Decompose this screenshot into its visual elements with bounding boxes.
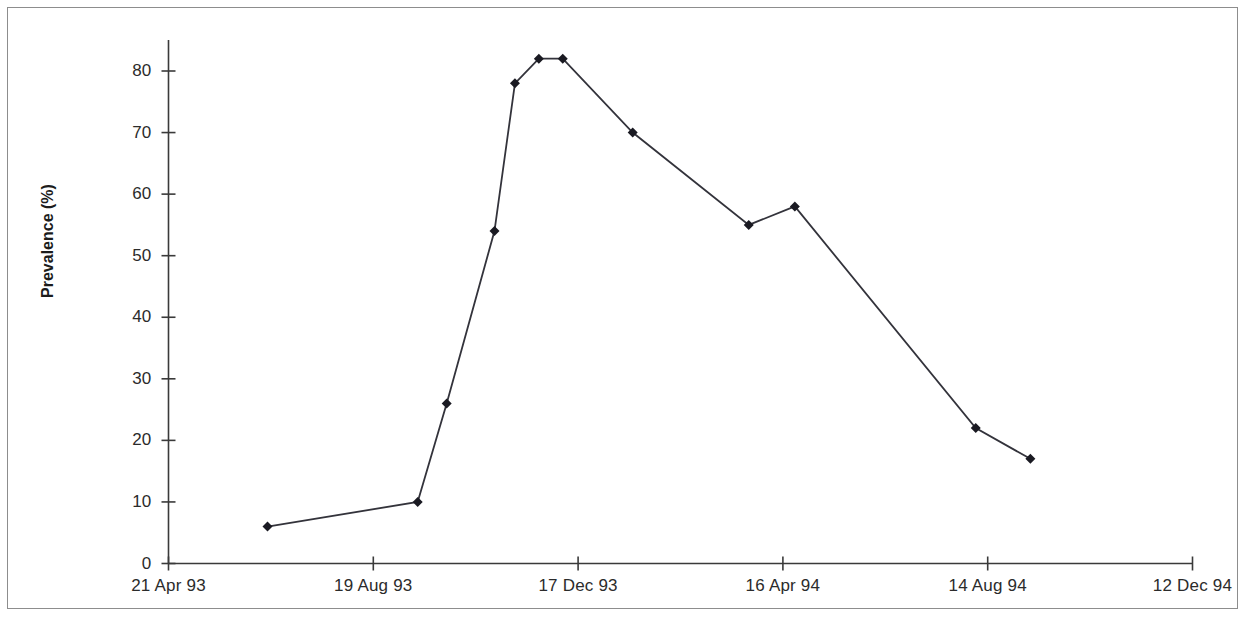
x-axis-tick-label: 21 Apr 93 <box>99 576 239 596</box>
data-point-marker <box>413 497 423 507</box>
data-line-series <box>267 59 1030 527</box>
y-axis-tick-label: 10 <box>90 492 152 512</box>
y-axis-tick-label: 20 <box>90 430 152 450</box>
line-chart-svg <box>0 0 1255 623</box>
y-axis-tick-label: 50 <box>90 246 152 266</box>
data-point-marker <box>262 522 272 532</box>
figure-container: Prevalence (%) 01020304050607080 21 Apr … <box>0 0 1255 623</box>
x-axis-tick-label: 12 Dec 94 <box>1123 576 1255 596</box>
data-point-marker <box>442 398 452 408</box>
y-axis-tick-label: 0 <box>90 554 152 574</box>
data-point-marker <box>489 226 499 236</box>
y-axis-tick-label: 80 <box>90 61 152 81</box>
plot-area: Prevalence (%) 01020304050607080 21 Apr … <box>0 0 1255 623</box>
data-point-marker <box>1025 454 1035 464</box>
y-axis-tick-label: 70 <box>90 123 152 143</box>
y-axis-tick-label: 60 <box>90 184 152 204</box>
x-axis-tick-label: 19 Aug 93 <box>303 576 443 596</box>
x-axis-tick-label: 17 Dec 93 <box>508 576 648 596</box>
x-axis-tick-label: 16 Apr 94 <box>713 576 853 596</box>
data-point-markers <box>262 54 1035 532</box>
y-axis-tick-label: 30 <box>90 369 152 389</box>
x-axis-tick-label: 14 Aug 94 <box>918 576 1058 596</box>
y-axis-tick-label: 40 <box>90 307 152 327</box>
